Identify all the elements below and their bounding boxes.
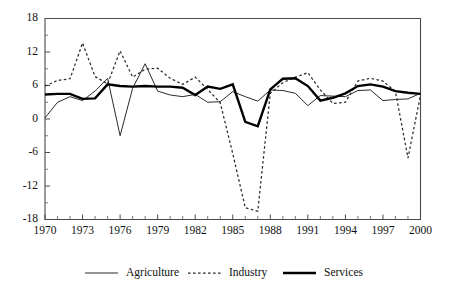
x-tick-label: 2000 [409,224,432,236]
plot-frame [45,19,421,220]
legend-label-industry: Industry [229,266,268,279]
x-tick-label: 1979 [146,224,169,236]
x-tick-label: 1973 [71,224,94,236]
chart-figure: 181260-6-12-18 1970197319761979198219851… [0,0,452,299]
y-axis-tick-labels: 181260-6-12-18 [23,11,39,224]
x-tick-label: 1997 [371,224,394,236]
y-tick-label: 6 [32,78,38,90]
y-tick-label: 0 [32,112,38,124]
plot-border [45,19,421,220]
y-tick-label: 18 [27,11,39,23]
x-tick-label: 1988 [259,224,282,236]
series-line-services [45,78,421,126]
x-tick-label: 1976 [109,224,132,236]
x-tick-label: 1970 [34,224,57,236]
legend-label-services: Services [324,266,363,278]
y-tick-label: -12 [23,179,39,191]
legend-label-agriculture: Agriculture [126,266,179,279]
x-tick-label: 1982 [184,224,207,236]
series-line-agriculture [45,64,421,136]
x-tick-label: 1985 [221,224,244,236]
series-line-industry [45,43,421,211]
chart-svg: 181260-6-12-18 1970197319761979198219851… [0,0,452,299]
x-tick-label: 1991 [296,224,319,236]
y-tick-label: 12 [27,45,39,57]
y-tick-label: -6 [28,145,38,157]
x-axis-ticks [45,215,421,220]
data-series-layer [45,43,421,211]
y-axis-ticks [45,19,50,220]
x-axis-tick-labels: 1970197319761979198219851988199119941997… [34,224,433,236]
x-tick-label: 1994 [334,224,357,236]
y-tick-label: -18 [23,212,39,224]
chart-legend: AgricultureIndustryServices [85,266,363,279]
